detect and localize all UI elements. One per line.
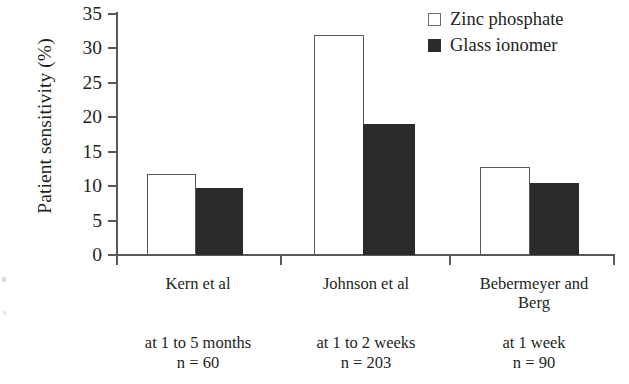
x-tick-label-johnson: Johnson et al [282,274,450,293]
sublabel-interval: at 1 week [450,333,618,353]
sublabel-interval: at 1 to 2 weeks [282,333,450,353]
legend-item-glass-ionomer: Glass ionomer [428,34,564,57]
x-axis-tick [280,256,282,265]
x-sublabel-johnson: at 1 to 2 weeks n = 203 [282,333,450,373]
x-tick-label-kern: Kern et al [114,274,282,293]
legend-label: Zinc phosphate [450,10,564,29]
x-sublabel-kern: at 1 to 5 months n = 60 [114,333,282,373]
x-axis-tick [116,256,118,265]
sublabel-interval: at 1 to 5 months [114,333,282,353]
bar-johnson-glass-ionomer [363,124,415,255]
sublabel-sample-size: n = 203 [282,353,450,373]
bar-bebermeyer-glass-ionomer [530,183,579,255]
bar-kern-glass-ionomer [196,188,243,255]
sublabel-sample-size: n = 90 [450,353,618,373]
category-name: Bebermeyer and [450,274,618,293]
category-name: Kern et al [114,274,282,293]
bar-johnson-zinc-phosphate [314,35,364,255]
x-sublabel-bebermeyer: at 1 week n = 90 [450,333,618,373]
scan-artifact [2,277,6,282]
scan-artifact [3,311,6,315]
legend-item-zinc-phosphate: Zinc phosphate [428,8,564,31]
open-square-icon [428,13,441,26]
x-tick-label-bebermeyer: Bebermeyer and Berg [450,274,618,312]
sublabel-sample-size: n = 60 [114,353,282,373]
bar-kern-zinc-phosphate [147,174,196,255]
x-axis-tick [449,256,451,265]
x-axis-tick [613,256,615,265]
category-name: Johnson et al [282,274,450,293]
bar-bebermeyer-zinc-phosphate [480,167,530,255]
legend-label: Glass ionomer [450,36,557,55]
filled-square-icon [428,39,441,52]
legend: Zinc phosphate Glass ionomer [428,8,564,60]
category-name-line2: Berg [450,293,618,312]
bar-chart-figure: Patient sensitivity (%) 05101520253035 Z… [0,0,629,384]
